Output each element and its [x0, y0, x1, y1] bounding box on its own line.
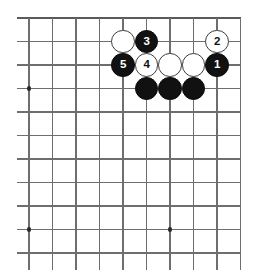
white-stone[interactable]: 2: [205, 30, 229, 54]
white-stone[interactable]: [182, 53, 206, 77]
stone-move-number: 1: [214, 59, 220, 71]
black-stone[interactable]: 3: [135, 30, 159, 54]
stone-move-number: 5: [120, 59, 126, 71]
stone-move-number: 3: [143, 36, 149, 48]
stone-move-number: 4: [143, 59, 149, 71]
black-stone[interactable]: 1: [205, 53, 229, 77]
white-stone[interactable]: [111, 30, 135, 54]
black-stone[interactable]: [182, 77, 206, 101]
black-stone[interactable]: [158, 77, 182, 101]
stone-move-number: 2: [214, 36, 220, 48]
black-stone[interactable]: [135, 77, 159, 101]
white-stone[interactable]: 4: [135, 53, 159, 77]
white-stone[interactable]: [158, 53, 182, 77]
black-stone[interactable]: 5: [111, 53, 135, 77]
